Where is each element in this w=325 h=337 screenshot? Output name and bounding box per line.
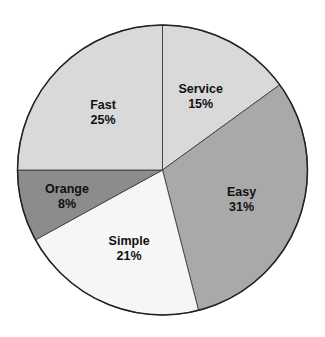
- slice-percent: 31%: [229, 200, 254, 214]
- slice-label: Service: [178, 82, 223, 96]
- slice-label: Easy: [227, 185, 256, 199]
- slice-label: Orange: [45, 182, 89, 196]
- slice-percent: 15%: [188, 97, 213, 111]
- slice-percent: 8%: [58, 197, 76, 211]
- slice-percent: 25%: [91, 113, 116, 127]
- slice-label: Simple: [109, 234, 150, 248]
- slice-label: Fast: [90, 98, 117, 112]
- slice-percent: 21%: [117, 249, 142, 263]
- pie-chart: Service15%Easy31%Simple21%Orange8%Fast25…: [0, 0, 325, 337]
